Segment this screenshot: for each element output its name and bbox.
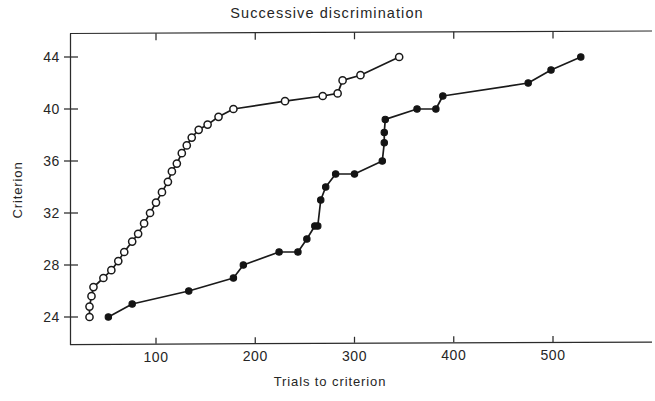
y-axis-title: Criterion (10, 161, 25, 218)
data-point-filled-circles (304, 236, 310, 242)
y-tick-label: 40 (43, 101, 60, 117)
chart-title: Successive discrimination (230, 5, 424, 21)
chart-svg: Successive discrimination 10020030040050… (0, 0, 655, 401)
data-point-open-circles (281, 98, 288, 105)
data-point-open-circles (90, 284, 97, 291)
chart-figure: Successive discrimination 10020030040050… (0, 0, 655, 401)
data-point-filled-circles (351, 171, 357, 177)
x-tick-label: 200 (243, 348, 268, 364)
data-point-open-circles (204, 121, 211, 128)
data-point-filled-circles (186, 288, 192, 294)
data-point-filled-circles (129, 301, 135, 307)
data-point-open-circles (195, 126, 202, 133)
data-point-open-circles (88, 293, 95, 300)
data-point-filled-circles (240, 262, 246, 268)
data-point-open-circles (339, 77, 346, 84)
y-tick-labels: 444036322824 (43, 49, 60, 325)
data-point-filled-circles (379, 158, 385, 164)
data-point-open-circles (230, 105, 237, 112)
data-point-open-circles (178, 150, 185, 157)
data-point-open-circles (334, 90, 341, 97)
data-point-filled-circles (381, 140, 387, 146)
data-point-open-circles (357, 72, 364, 79)
series-line-filled-circles (108, 57, 580, 317)
data-point-filled-circles (414, 106, 420, 112)
data-point-open-circles (108, 267, 115, 274)
data-point-open-circles (173, 160, 180, 167)
data-point-filled-circles (525, 80, 531, 86)
data-point-open-circles (164, 178, 171, 185)
data-point-filled-circles (433, 106, 439, 112)
data-point-filled-circles (382, 116, 388, 122)
x-tick-label: 100 (143, 349, 168, 365)
data-point-filled-circles (105, 314, 111, 320)
data-point-filled-circles (323, 184, 329, 190)
y-tick-label: 24 (43, 309, 60, 325)
top-axis-rule (70, 31, 652, 34)
data-point-filled-circles (548, 67, 554, 73)
x-axis-title: Trials to criterion (274, 374, 387, 389)
data-point-open-circles (140, 220, 147, 227)
data-point-filled-circles (295, 249, 301, 255)
x-tick-label: 300 (342, 348, 367, 364)
data-point-open-circles (146, 209, 153, 216)
x-axis-line (70, 342, 652, 345)
data-point-open-circles (86, 313, 93, 320)
y-tick-label: 28 (43, 257, 60, 273)
data-point-filled-circles (381, 129, 387, 135)
data-point-open-circles (396, 53, 403, 60)
data-point-open-circles (115, 258, 122, 265)
data-point-open-circles (158, 189, 165, 196)
y-tick-label: 36 (43, 153, 60, 169)
data-point-filled-circles (440, 93, 446, 99)
x-tick-label: 400 (441, 347, 466, 363)
x-tick-label: 500 (540, 347, 565, 363)
data-point-filled-circles (315, 223, 321, 229)
data-point-open-circles (183, 142, 190, 149)
data-point-open-circles (319, 92, 326, 99)
y-tick-label: 32 (43, 205, 60, 221)
data-point-open-circles (135, 230, 142, 237)
series-line-open-circles (90, 57, 400, 317)
x-tick-labels: 100200300400500 (143, 347, 565, 365)
data-point-filled-circles (230, 275, 236, 281)
y-tick-label: 44 (43, 49, 60, 65)
series-markers-layer (86, 53, 584, 320)
data-point-filled-circles (578, 54, 584, 60)
data-point-open-circles (121, 248, 128, 255)
data-point-open-circles (152, 199, 159, 206)
data-point-open-circles (129, 238, 136, 245)
data-point-open-circles (86, 303, 93, 310)
data-point-open-circles (215, 113, 222, 120)
data-point-open-circles (188, 134, 195, 141)
data-point-filled-circles (332, 171, 338, 177)
data-point-filled-circles (318, 197, 324, 203)
data-point-filled-circles (276, 249, 282, 255)
data-point-open-circles (168, 168, 175, 175)
data-point-open-circles (100, 274, 107, 281)
